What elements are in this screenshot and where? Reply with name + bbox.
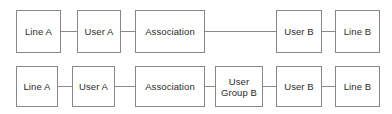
connector-r2-association-to-r2-user-group-b [205,86,215,87]
group-mediated-association-row: Line AUser AAssociationUser Group BUser … [0,0,392,114]
node-r2-user-b[interactable]: User B [276,66,322,107]
node-r2-association[interactable]: Association [135,66,205,107]
node-label: User B [284,81,314,92]
connector-r2-user-b-to-r2-line-b [322,86,335,87]
node-label: Association [145,81,195,92]
node-r2-line-b[interactable]: Line B [335,66,380,107]
node-r2-line-a[interactable]: Line A [16,66,58,107]
node-label: User A [79,81,108,92]
diagram-canvas: Line AUser AAssociationUser BLine BLine … [0,0,392,114]
node-r2-user-a[interactable]: User A [72,66,115,107]
node-label: Line B [344,81,372,92]
node-label: Line A [23,81,50,92]
connector-r2-user-a-to-r2-association [115,86,135,87]
connector-r2-line-a-to-r2-user-a [58,86,72,87]
node-label: User Group B [221,76,257,98]
node-r2-user-group-b[interactable]: User Group B [215,66,263,107]
connector-r2-user-group-b-to-r2-user-b [263,86,276,87]
